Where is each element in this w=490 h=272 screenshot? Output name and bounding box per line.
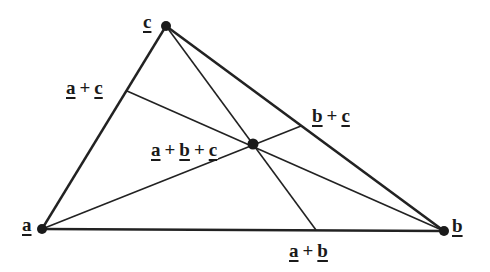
label-part: b <box>317 240 328 261</box>
diagram-lines <box>0 0 490 272</box>
label-vertex-b: b <box>452 216 463 235</box>
label-midpoint-ac: a+c <box>66 78 103 97</box>
label-part: a <box>151 139 161 160</box>
label-op: + <box>299 240 318 261</box>
label-vertex-c: c <box>143 12 151 31</box>
centroid-dot <box>248 139 259 150</box>
label-op: + <box>76 77 95 98</box>
label-a-text: a <box>22 214 32 235</box>
label-part: b <box>312 105 323 126</box>
label-op: + <box>323 105 342 126</box>
label-vertex-a: a <box>22 215 32 234</box>
side-ac <box>42 26 166 229</box>
label-part: c <box>209 139 217 160</box>
label-centroid: a+b+c <box>150 140 218 159</box>
label-part: a <box>289 240 299 261</box>
label-op: + <box>161 139 180 160</box>
label-midpoint-ab: a+b <box>289 241 328 260</box>
label-part: a <box>66 77 76 98</box>
label-part: c <box>341 105 349 126</box>
vertex-c-dot <box>161 21 171 31</box>
side-bc <box>166 26 444 231</box>
triangle-diagram: c a b a+c b+c a+b a+b+c <box>0 0 490 272</box>
median-from-b <box>127 91 444 231</box>
label-c-text: c <box>143 11 151 32</box>
median-from-c <box>166 26 316 230</box>
label-part: b <box>179 139 190 160</box>
label-b-text: b <box>452 215 463 236</box>
vertex-a-dot <box>37 224 47 234</box>
label-part: c <box>94 77 102 98</box>
label-op: + <box>190 139 209 160</box>
side-ab <box>42 229 444 231</box>
vertex-b-dot <box>439 226 449 236</box>
label-midpoint-bc: b+c <box>312 106 350 125</box>
